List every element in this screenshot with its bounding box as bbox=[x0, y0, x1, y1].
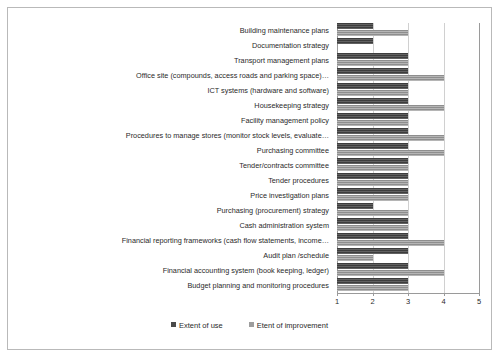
bar-extent-of-use bbox=[337, 53, 408, 59]
category-label: Office site (compounds, access roads and… bbox=[136, 71, 329, 80]
bar-extent-of-use bbox=[337, 248, 408, 254]
x-tick-label: 2 bbox=[366, 297, 380, 306]
plot-area bbox=[337, 23, 479, 293]
bar-extent-of-use bbox=[337, 278, 408, 284]
bar-extent-of-use bbox=[337, 128, 408, 134]
bar-row bbox=[337, 233, 479, 248]
category-label: Price investigation plans bbox=[250, 191, 329, 200]
bar-extent-of-improvement bbox=[337, 180, 408, 186]
bar-row bbox=[337, 248, 479, 263]
bar-extent-of-improvement bbox=[337, 225, 408, 231]
x-tick-label: 5 bbox=[472, 297, 486, 306]
category-label: Budget planning and monitoring procedure… bbox=[187, 281, 329, 290]
x-tick-label: 1 bbox=[330, 297, 344, 306]
bar-extent-of-use bbox=[337, 203, 373, 209]
category-label: Financial accounting system (book keepin… bbox=[163, 266, 329, 275]
bar-row bbox=[337, 23, 479, 38]
category-label: Tender/contracts committee bbox=[239, 161, 329, 170]
bar-extent-of-improvement bbox=[337, 105, 444, 111]
bar-extent-of-improvement bbox=[337, 135, 444, 141]
bar-extent-of-use bbox=[337, 23, 373, 29]
legend-label: Etent of improvement bbox=[257, 321, 328, 330]
bar-extent-of-improvement bbox=[337, 150, 444, 156]
bar-extent-of-improvement bbox=[337, 60, 408, 66]
legend-item[interactable]: Etent of improvement bbox=[249, 320, 328, 330]
bar-extent-of-use bbox=[337, 143, 408, 149]
bar-row bbox=[337, 203, 479, 218]
bar-row bbox=[337, 98, 479, 113]
bar-row bbox=[337, 218, 479, 233]
category-label: Financial reporting frameworks (cash flo… bbox=[122, 236, 329, 245]
bar-extent-of-use bbox=[337, 68, 408, 74]
bar-extent-of-improvement bbox=[337, 240, 444, 246]
chart-frame: Building maintenance plansDocumentation … bbox=[7, 7, 492, 350]
category-label: Audit plan /schedule bbox=[263, 251, 329, 260]
category-label: Procedures to manage stores (monitor sto… bbox=[126, 131, 329, 140]
legend-swatch-icon bbox=[249, 322, 254, 327]
bar-extent-of-use bbox=[337, 158, 408, 164]
category-label: Purchasing committee bbox=[257, 146, 329, 155]
chart-legend: Extent of useEtent of improvement bbox=[8, 320, 491, 330]
category-label: Cash administration system bbox=[239, 221, 329, 230]
category-label: ICT systems (hardware and software) bbox=[207, 86, 329, 95]
gridline-5 bbox=[479, 23, 480, 293]
x-tick-mark bbox=[479, 293, 480, 296]
category-label: Housekeeping strategy bbox=[254, 101, 329, 110]
bar-extent-of-use bbox=[337, 233, 408, 239]
bar-extent-of-improvement bbox=[337, 255, 373, 261]
category-label: Purchasing (procurement) strategy bbox=[217, 206, 329, 215]
bar-row bbox=[337, 53, 479, 68]
x-tick-mark bbox=[408, 293, 409, 296]
bar-row bbox=[337, 83, 479, 98]
bar-extent-of-improvement bbox=[337, 75, 444, 81]
bar-extent-of-use bbox=[337, 188, 408, 194]
category-label: Documentation strategy bbox=[252, 41, 329, 50]
bar-extent-of-improvement bbox=[337, 90, 408, 96]
bar-extent-of-improvement bbox=[337, 285, 408, 291]
x-tick-mark bbox=[444, 293, 445, 296]
bar-row bbox=[337, 158, 479, 173]
bar-extent-of-use bbox=[337, 83, 408, 89]
x-tick-label: 4 bbox=[437, 297, 451, 306]
bar-row bbox=[337, 278, 479, 293]
bar-extent-of-improvement bbox=[337, 30, 408, 36]
legend-swatch-icon bbox=[171, 322, 176, 327]
bar-row bbox=[337, 143, 479, 158]
bar-row bbox=[337, 188, 479, 203]
bar-row bbox=[337, 68, 479, 83]
legend-item[interactable]: Extent of use bbox=[171, 320, 223, 330]
category-label: Transport management plans bbox=[234, 56, 329, 65]
bar-row bbox=[337, 113, 479, 128]
bar-extent-of-improvement bbox=[337, 210, 408, 216]
legend-label: Extent of use bbox=[179, 321, 223, 330]
bar-extent-of-use bbox=[337, 113, 408, 119]
bar-extent-of-improvement bbox=[337, 270, 444, 276]
bar-extent-of-use bbox=[337, 173, 408, 179]
category-axis-labels: Building maintenance plansDocumentation … bbox=[13, 23, 333, 293]
category-label: Facility management policy bbox=[241, 116, 329, 125]
x-tick-mark bbox=[373, 293, 374, 296]
bar-extent-of-use bbox=[337, 38, 373, 44]
bar-extent-of-use bbox=[337, 218, 408, 224]
x-tick-label: 3 bbox=[401, 297, 415, 306]
bar-row bbox=[337, 173, 479, 188]
bar-extent-of-use bbox=[337, 263, 408, 269]
bar-row bbox=[337, 128, 479, 143]
bar-extent-of-improvement bbox=[337, 195, 408, 201]
bar-extent-of-use bbox=[337, 98, 408, 104]
bar-extent-of-improvement bbox=[337, 165, 408, 171]
category-label: Tender procedures bbox=[268, 176, 329, 185]
bar-extent-of-improvement bbox=[337, 120, 408, 126]
x-tick-mark bbox=[337, 293, 338, 296]
bar-row bbox=[337, 263, 479, 278]
bar-row bbox=[337, 38, 479, 53]
category-label: Building maintenance plans bbox=[240, 26, 329, 35]
